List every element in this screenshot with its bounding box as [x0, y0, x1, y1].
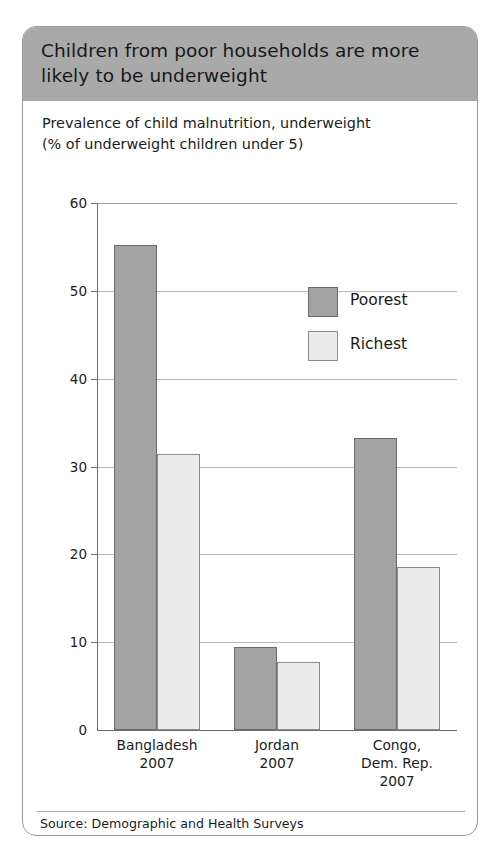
x-label-line: Bangladesh	[117, 737, 198, 753]
y-axis-line	[97, 203, 98, 731]
bar-richest-0	[157, 454, 200, 730]
x-label-line: 2007	[327, 772, 467, 790]
y-tick-label-50: 50	[41, 285, 87, 298]
x-label-line: Jordan	[255, 737, 299, 753]
legend-swatch-richest-icon	[308, 331, 338, 361]
source-note: Source: Demographic and Health Surveys	[40, 816, 304, 831]
legend-swatch-poorest-icon	[308, 287, 338, 317]
x-label-line: Congo,	[373, 737, 421, 753]
x-label-line: 2007	[207, 754, 347, 772]
y-tick-label-20: 20	[41, 548, 87, 561]
gridline-60	[97, 203, 457, 204]
legend-label-richest: Richest	[350, 335, 407, 353]
chart-card: Children from poor households are more l…	[22, 26, 478, 836]
x-axis-label-0: Bangladesh2007	[87, 736, 227, 772]
x-axis-label-1: Jordan2007	[207, 736, 347, 772]
y-tick-label-60: 60	[41, 197, 87, 210]
y-tick-label-0: 0	[41, 724, 87, 737]
x-axis-label-2: Congo,Dem. Rep.2007	[327, 736, 467, 790]
legend-label-poorest: Poorest	[350, 291, 407, 309]
y-tick-label-10: 10	[41, 636, 87, 649]
bar-richest-2	[397, 567, 440, 730]
x-label-line: 2007	[87, 754, 227, 772]
bar-richest-1	[277, 662, 320, 730]
source-divider	[37, 811, 465, 812]
y-tick-label-30: 30	[41, 461, 87, 474]
bar-poorest-1	[234, 647, 277, 730]
y-tick-label-40: 40	[41, 373, 87, 386]
bar-poorest-2	[354, 438, 397, 730]
x-axis-line	[97, 730, 457, 731]
x-label-line: Dem. Rep.	[327, 754, 467, 772]
bar-poorest-0	[114, 245, 157, 730]
chart-plot-area: 0102030405060 Bangladesh2007Jordan2007Co…	[23, 27, 478, 767]
